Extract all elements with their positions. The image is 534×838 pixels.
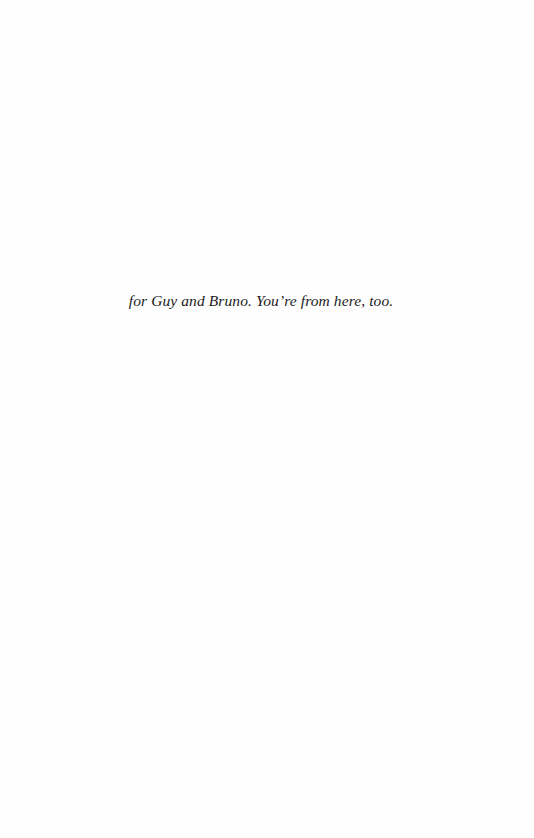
book-page: for Guy and Bruno. You’re from here, too… (0, 0, 534, 838)
dedication-text: for Guy and Bruno. You’re from here, too… (0, 292, 534, 310)
